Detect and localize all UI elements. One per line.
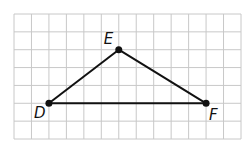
triangle-sides	[49, 50, 206, 104]
vertices: DEF	[34, 30, 218, 125]
point-E	[115, 46, 122, 53]
label-E: E	[104, 30, 114, 48]
label-F: F	[209, 106, 218, 124]
point-D	[45, 100, 52, 107]
label-D: D	[34, 104, 46, 122]
grid	[14, 14, 241, 139]
triangle-diagram: DEF	[0, 0, 247, 148]
segment-EF	[119, 50, 206, 104]
